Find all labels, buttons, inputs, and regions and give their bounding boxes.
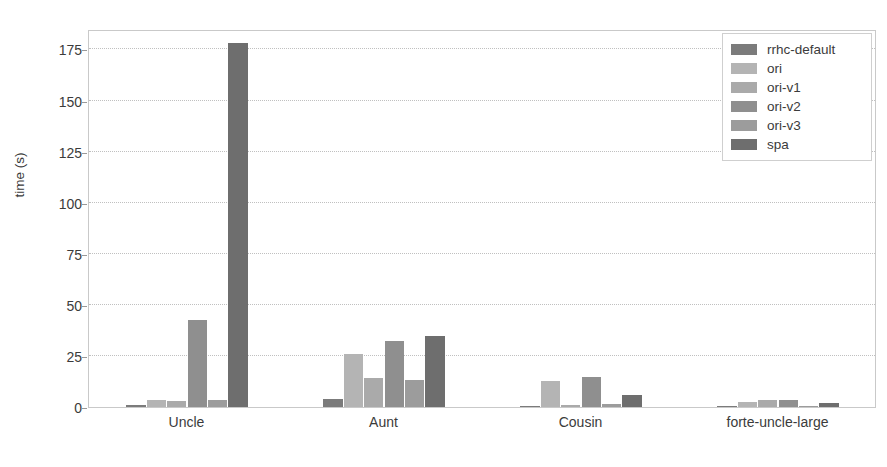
- y-axis-ticks: 0255075100125150175: [34, 30, 82, 408]
- legend-swatch-icon: [731, 101, 757, 112]
- y-tick-mark: [82, 50, 87, 51]
- y-tick-mark: [82, 408, 87, 409]
- bar: [405, 380, 424, 407]
- x-tick-label: forte-uncle-large: [727, 414, 829, 430]
- y-tick-mark: [82, 204, 87, 205]
- bar: [188, 320, 207, 407]
- y-tick-label: 25: [38, 349, 82, 365]
- x-tick-label: Cousin: [559, 414, 603, 430]
- legend-item[interactable]: ori-v3: [731, 116, 863, 135]
- bar: [385, 341, 404, 407]
- legend-item[interactable]: ori: [731, 59, 863, 78]
- bar: [228, 43, 247, 407]
- bar: [819, 403, 838, 407]
- legend-label: ori-v2: [767, 99, 801, 114]
- legend-label: ori-v3: [767, 118, 801, 133]
- bar: [364, 378, 383, 407]
- y-tick-label: 175: [38, 42, 82, 58]
- legend-item[interactable]: ori-v2: [731, 97, 863, 116]
- legend: rrhc-defaultoriori-v1ori-v2ori-v3spa: [722, 33, 872, 161]
- bar: [541, 381, 560, 407]
- y-tick-label: 50: [38, 298, 82, 314]
- legend-swatch-icon: [731, 139, 757, 150]
- bar: [622, 395, 641, 407]
- legend-item[interactable]: rrhc-default: [731, 40, 863, 59]
- bar: [561, 405, 580, 407]
- bar: [126, 405, 145, 407]
- y-tick-mark: [82, 255, 87, 256]
- bar: [582, 377, 601, 407]
- bar: [799, 406, 818, 407]
- bar: [323, 399, 342, 407]
- bar: [208, 400, 227, 407]
- x-tick-label: Uncle: [169, 414, 205, 430]
- bar: [520, 406, 539, 407]
- legend-swatch-icon: [731, 120, 757, 131]
- bar: [738, 402, 757, 407]
- y-tick-mark: [82, 306, 87, 307]
- y-tick-label: 0: [38, 400, 82, 416]
- y-tick-label: 125: [38, 145, 82, 161]
- y-axis-label: time (s): [12, 125, 27, 225]
- x-axis-ticks: UncleAuntCousinforte-uncle-large: [88, 414, 876, 440]
- legend-label: ori-v1: [767, 80, 801, 95]
- y-tick-mark: [82, 102, 87, 103]
- legend-swatch-icon: [731, 82, 757, 93]
- legend-item[interactable]: ori-v1: [731, 78, 863, 97]
- bar: [167, 401, 186, 407]
- y-tick-label: 100: [38, 196, 82, 212]
- x-tick-label: Aunt: [369, 414, 398, 430]
- bar: [779, 400, 798, 407]
- bar: [425, 336, 444, 408]
- legend-label: spa: [767, 137, 789, 152]
- y-tick-label: 150: [38, 94, 82, 110]
- bar: [147, 400, 166, 407]
- legend-swatch-icon: [731, 63, 757, 74]
- bar: [344, 354, 363, 407]
- y-tick-mark: [82, 357, 87, 358]
- legend-item[interactable]: spa: [731, 135, 863, 154]
- bar: [758, 400, 777, 407]
- bar: [717, 406, 736, 407]
- y-tick-mark: [82, 153, 87, 154]
- legend-label: rrhc-default: [767, 42, 835, 57]
- legend-swatch-icon: [731, 44, 757, 55]
- chart-figure: time (s) 0255075100125150175 UncleAuntCo…: [0, 0, 887, 467]
- bar: [602, 404, 621, 407]
- legend-label: ori: [767, 61, 782, 76]
- y-tick-label: 75: [38, 247, 82, 263]
